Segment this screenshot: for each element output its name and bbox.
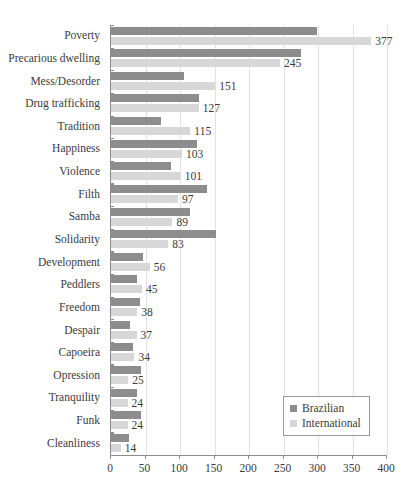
bar-international[interactable] [111, 82, 215, 90]
legend-swatch-brazilian [290, 405, 297, 412]
category-label: Happiness [52, 142, 100, 155]
category-label: Precarious dwelling [8, 52, 100, 65]
bar-brazilian[interactable] [111, 230, 216, 238]
bar-value-label: 127 [203, 102, 220, 114]
category-label: Filth [78, 188, 100, 201]
bar-brazilian[interactable] [111, 253, 143, 261]
x-axis-tick-label: 300 [308, 461, 325, 475]
bar-international[interactable] [111, 421, 128, 429]
bar-international[interactable] [111, 195, 178, 203]
bars-layer: 3772451511271151031019789835645383734252… [111, 25, 387, 455]
x-axis-tick [317, 455, 318, 459]
bar-brazilian[interactable] [111, 321, 130, 329]
legend: Brazilian International [283, 396, 370, 436]
bar-value-label: 115 [194, 125, 211, 137]
x-axis-tick [145, 455, 146, 459]
x-axis-tick-label: 200 [239, 461, 256, 475]
bar-brazilian[interactable] [111, 72, 184, 80]
bar-brazilian[interactable] [111, 49, 301, 57]
bar-group: 25 [111, 364, 387, 387]
bar-international[interactable] [111, 376, 128, 384]
x-axis-tick [214, 455, 215, 459]
category-label: Poverty [64, 29, 100, 42]
bar-international[interactable] [111, 218, 172, 226]
bar-value-label: 24 [132, 419, 144, 431]
bar-brazilian[interactable] [111, 185, 207, 193]
bar-group: 151 [111, 70, 387, 93]
bar-group: 245 [111, 48, 387, 71]
category-label: Freedom [59, 301, 100, 314]
bar-brazilian[interactable] [111, 434, 129, 442]
bar-value-label: 45 [146, 283, 158, 295]
bar-value-label: 103 [186, 148, 203, 160]
x-axis-tick [352, 455, 353, 459]
legend-label-international: International [302, 417, 361, 430]
bar-brazilian[interactable] [111, 162, 171, 170]
bar-value-label: 245 [284, 57, 301, 69]
bar-international[interactable] [111, 37, 371, 45]
bar-international[interactable] [111, 285, 142, 293]
category-label: Despair [64, 324, 100, 337]
bar-international[interactable] [111, 308, 137, 316]
bar-value-label: 97 [182, 193, 194, 205]
legend-item-brazilian[interactable]: Brazilian [290, 401, 361, 416]
bar-value-label: 14 [125, 442, 137, 454]
category-label: Mess/Desorder [30, 75, 100, 88]
bar-group: 127 [111, 93, 387, 116]
category-label: Violence [59, 165, 100, 178]
bar-international[interactable] [111, 59, 280, 67]
bar-group: 34 [111, 342, 387, 365]
x-axis-tick-label: 100 [170, 461, 187, 475]
x-axis-line [110, 455, 386, 456]
bar-value-label: 38 [141, 306, 153, 318]
bar-international[interactable] [111, 172, 181, 180]
x-axis-tick-labels: 050100150200250300350400 [110, 461, 386, 477]
category-label: Samba [69, 210, 100, 223]
bar-international[interactable] [111, 104, 199, 112]
bar-international[interactable] [111, 444, 121, 452]
y-axis-category-labels: PovertyPrecarious dwellingMess/DesorderD… [0, 25, 106, 455]
bar-value-label: 24 [132, 397, 144, 409]
bar-brazilian[interactable] [111, 389, 137, 397]
bar-brazilian[interactable] [111, 411, 141, 419]
bar-value-label: 101 [185, 170, 202, 182]
bar-brazilian[interactable] [111, 208, 190, 216]
bar-brazilian[interactable] [111, 366, 141, 374]
category-label: Peddlers [60, 278, 100, 291]
bar-international[interactable] [111, 127, 190, 135]
legend-label-brazilian: Brazilian [302, 402, 344, 415]
category-label: Opression [53, 369, 100, 382]
bar-brazilian[interactable] [111, 117, 161, 125]
x-axis-tick-label: 400 [377, 461, 394, 475]
bar-value-label: 83 [172, 238, 184, 250]
bar-international[interactable] [111, 331, 137, 339]
bar-international[interactable] [111, 263, 150, 271]
bar-brazilian[interactable] [111, 27, 317, 35]
category-label: Solidarity [55, 233, 100, 246]
bar-brazilian[interactable] [111, 94, 199, 102]
bar-chart: PovertyPrecarious dwellingMess/DesorderD… [0, 0, 410, 491]
category-label: Drug trafficking [25, 97, 100, 110]
bar-group: 377 [111, 25, 387, 48]
bar-international[interactable] [111, 150, 182, 158]
bar-international[interactable] [111, 240, 168, 248]
bar-brazilian[interactable] [111, 343, 133, 351]
category-label: Tranquility [49, 391, 100, 404]
bar-international[interactable] [111, 399, 128, 407]
bar-group: 97 [111, 183, 387, 206]
category-label: Tradition [58, 120, 100, 133]
bar-brazilian[interactable] [111, 140, 197, 148]
x-axis-tick-label: 150 [205, 461, 222, 475]
gridline-400 [387, 25, 388, 455]
x-axis-tick-label: 50 [139, 461, 151, 475]
bar-group: 89 [111, 206, 387, 229]
bar-brazilian[interactable] [111, 298, 140, 306]
bar-value-label: 37 [141, 329, 153, 341]
legend-item-international[interactable]: International [290, 416, 361, 431]
bar-group: 38 [111, 297, 387, 320]
bar-brazilian[interactable] [111, 275, 137, 283]
x-axis-tick-label: 0 [107, 461, 113, 475]
x-axis-tick [283, 455, 284, 459]
bar-value-label: 377 [375, 35, 392, 47]
bar-international[interactable] [111, 353, 134, 361]
